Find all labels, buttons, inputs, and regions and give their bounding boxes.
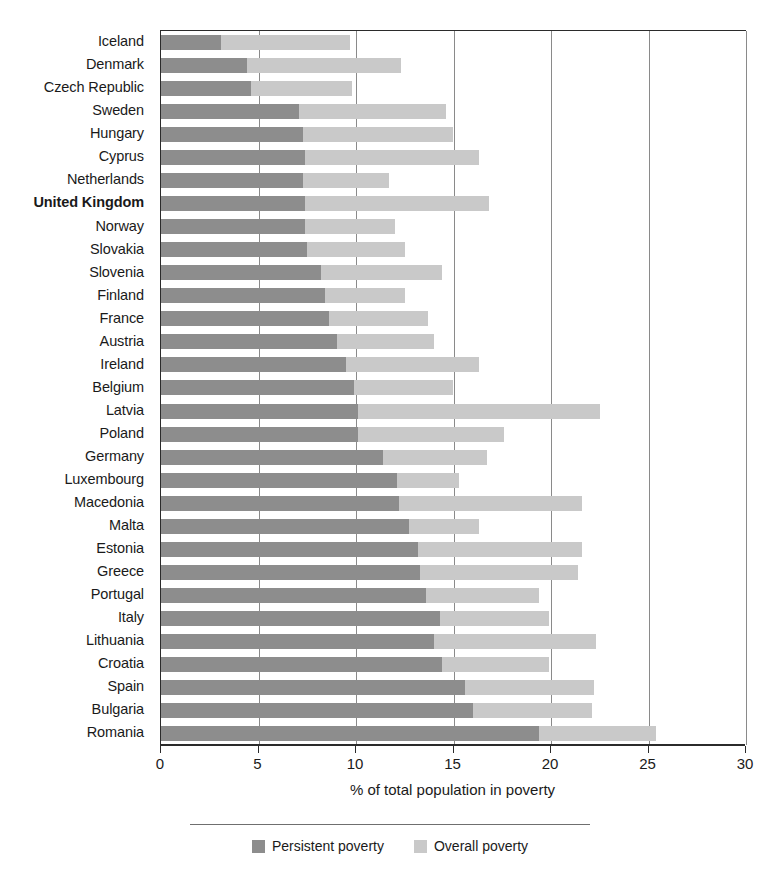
category-label: Czech Republic	[0, 76, 152, 99]
bar-segment-persistent	[161, 542, 418, 557]
bar-row	[161, 146, 746, 169]
bar-row	[161, 630, 746, 653]
bar-segment-overall	[354, 380, 453, 395]
bar-segment-persistent	[161, 634, 434, 649]
x-tick	[355, 746, 356, 753]
bar-row	[161, 31, 746, 54]
bar-segment-overall	[409, 519, 479, 534]
bar-segment-persistent	[161, 242, 307, 257]
bar-row	[161, 330, 746, 353]
category-label: Portugal	[0, 583, 152, 606]
bar-segment-overall	[465, 680, 594, 695]
bar-segment-overall	[321, 265, 442, 280]
bar-segment-overall	[305, 150, 479, 165]
bar-row	[161, 469, 746, 492]
bar-segment-overall	[221, 35, 350, 50]
bar-segment-persistent	[161, 150, 305, 165]
category-label: Slovakia	[0, 237, 152, 260]
bar-segment-persistent	[161, 473, 397, 488]
category-label: Cyprus	[0, 145, 152, 168]
legend-swatch-icon	[414, 840, 427, 853]
bar-segment-overall	[305, 219, 395, 234]
bar-segment-persistent	[161, 357, 346, 372]
bar-segment-overall	[383, 450, 486, 465]
bar-segment-persistent	[161, 58, 247, 73]
bar-segment-overall	[247, 58, 401, 73]
x-tick	[453, 746, 454, 753]
bar-segment-persistent	[161, 450, 383, 465]
bar-segment-overall	[325, 288, 405, 303]
x-tick	[160, 746, 161, 753]
bar-segment-persistent	[161, 680, 465, 695]
category-label: United Kingdom	[0, 191, 152, 214]
category-label: Sweden	[0, 99, 152, 122]
bar-segment-overall	[303, 127, 453, 142]
category-label: Estonia	[0, 537, 152, 560]
bar-segment-overall	[329, 311, 428, 326]
bar-segment-overall	[442, 657, 549, 672]
x-tick-label: 30	[737, 754, 754, 774]
legend-item: Persistent poverty	[252, 838, 384, 854]
bar-segment-persistent	[161, 726, 539, 741]
category-label: Germany	[0, 445, 152, 468]
bar-row	[161, 492, 746, 515]
bar-segment-persistent	[161, 611, 440, 626]
x-axis-tick-labels: 051015202530	[160, 754, 745, 776]
bar-segment-persistent	[161, 380, 354, 395]
category-label: Norway	[0, 214, 152, 237]
bar-segment-persistent	[161, 127, 303, 142]
bar-row	[161, 54, 746, 77]
bar-row	[161, 676, 746, 699]
bar-segment-persistent	[161, 427, 358, 442]
category-label: Bulgaria	[0, 698, 152, 721]
x-tick-label: 20	[542, 754, 559, 774]
x-axis-title: % of total population in poverty	[160, 781, 745, 798]
bar-segment-persistent	[161, 519, 409, 534]
category-label: Malta	[0, 514, 152, 537]
bar-segment-persistent	[161, 657, 442, 672]
legend-label: Overall poverty	[434, 838, 528, 854]
bar-row	[161, 538, 746, 561]
category-label: Poland	[0, 422, 152, 445]
bar-segment-persistent	[161, 288, 325, 303]
bar-row	[161, 653, 746, 676]
gridline	[746, 31, 747, 745]
bar-row	[161, 238, 746, 261]
x-tick-label: 25	[639, 754, 656, 774]
x-tick-label: 10	[347, 754, 364, 774]
bar-segment-persistent	[161, 35, 221, 50]
x-axis-ticks	[160, 746, 745, 754]
legend-item: Overall poverty	[414, 838, 528, 854]
bar-segment-overall	[307, 242, 405, 257]
legend-label: Persistent poverty	[272, 838, 384, 854]
x-tick	[745, 746, 746, 753]
x-tick	[550, 746, 551, 753]
bar-row	[161, 353, 746, 376]
bar-row	[161, 561, 746, 584]
category-label: Latvia	[0, 399, 152, 422]
x-tick	[258, 746, 259, 753]
legend-separator	[190, 824, 590, 825]
bar-segment-overall	[346, 357, 479, 372]
x-tick-label: 5	[253, 754, 261, 774]
bar-segment-persistent	[161, 404, 358, 419]
bar-row	[161, 123, 746, 146]
bar-segment-overall	[473, 703, 592, 718]
bar-segment-persistent	[161, 496, 399, 511]
plot-area	[160, 30, 746, 745]
bar-segment-persistent	[161, 565, 420, 580]
category-label: Iceland	[0, 30, 152, 53]
category-label: Macedonia	[0, 491, 152, 514]
category-label: Ireland	[0, 352, 152, 375]
bar-segment-overall	[337, 334, 435, 349]
category-label: Denmark	[0, 53, 152, 76]
bar-row	[161, 261, 746, 284]
bar-segment-overall	[539, 726, 656, 741]
bar-segment-persistent	[161, 334, 337, 349]
bar-row	[161, 376, 746, 399]
category-label: Luxembourg	[0, 468, 152, 491]
category-label: France	[0, 306, 152, 329]
bar-segment-overall	[251, 81, 352, 96]
bar-segment-overall	[426, 588, 539, 603]
bar-segment-overall	[434, 634, 596, 649]
